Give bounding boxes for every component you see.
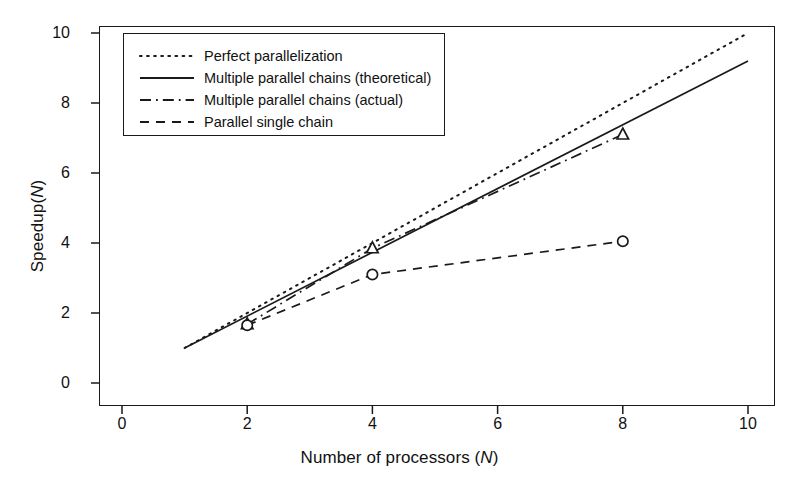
data-point-circle-marker: [242, 320, 252, 330]
data-point-circle-marker: [618, 236, 628, 246]
legend-line-sample: [138, 45, 196, 67]
data-point-triangle-marker: [367, 242, 379, 253]
legend-item: Parallel single chain: [124, 111, 444, 133]
x-tick-label: 6: [493, 415, 502, 433]
chart-figure: 0246810 Speedup(N) Perfect parallelizati…: [0, 0, 799, 483]
x-tick-label: 2: [243, 415, 252, 433]
series-line: [247, 135, 623, 325]
data-markers-group: [241, 128, 628, 330]
x-axis-title-italic: N: [480, 448, 492, 467]
x-tick-label: 10: [739, 415, 757, 433]
legend-item-label: Parallel single chain: [204, 111, 333, 133]
x-axis-title-tail: ): [493, 448, 499, 467]
x-axis-title: Number of processors (N): [0, 448, 799, 468]
data-point-circle-marker: [367, 269, 377, 279]
x-axis-title-text: Number of processors (: [301, 448, 481, 467]
legend-item-label: Multiple parallel chains (theoretical): [204, 67, 431, 89]
series-line: [247, 241, 623, 325]
x-tick-label: 0: [118, 415, 127, 433]
x-tick-label: 8: [618, 415, 627, 433]
data-point-triangle-marker: [617, 128, 629, 139]
legend-line-sample: [138, 67, 196, 89]
legend: Perfect parallelizationMultiple parallel…: [123, 33, 445, 136]
legend-line-sample: [138, 89, 196, 111]
legend-item: Multiple parallel chains (theoretical): [124, 67, 444, 89]
legend-item-label: Perfect parallelization: [204, 45, 343, 67]
legend-item-label: Multiple parallel chains (actual): [204, 89, 403, 111]
legend-item: Perfect parallelization: [124, 45, 444, 67]
legend-item: Multiple parallel chains (actual): [124, 89, 444, 111]
x-tick-label: 4: [368, 415, 377, 433]
legend-line-sample: [138, 111, 196, 133]
